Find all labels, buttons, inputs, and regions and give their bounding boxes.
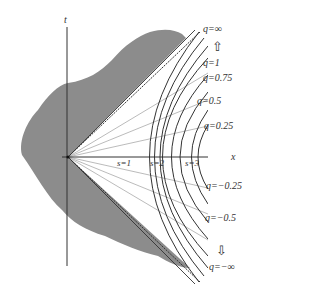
q-025-label: q=0.25 [204, 121, 233, 131]
down-arrow-icon: ⇩ [216, 244, 227, 257]
q-inf-label: q=∞ [203, 24, 222, 34]
s1-label: s=1 [117, 159, 131, 168]
q-1-label: q=1 [203, 58, 220, 68]
q-075-label: q=0.75 [203, 73, 232, 83]
q-05-label: q=0.5 [197, 96, 221, 106]
q-neg-inf-label: q=−∞ [209, 262, 235, 272]
origin-dot [66, 155, 69, 158]
s3-label: s=3 [185, 159, 199, 168]
s2-label: s=2 [150, 159, 164, 168]
t-axis-label: t [64, 15, 67, 25]
up-arrow-icon: ⇧ [212, 40, 223, 53]
x-axis-label: x [231, 152, 235, 162]
q-neg025-label: q=−0.25 [206, 181, 242, 191]
q-neg05-label: q=−0.5 [205, 213, 236, 223]
